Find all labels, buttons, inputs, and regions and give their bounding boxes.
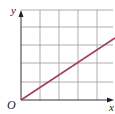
graph: [0, 0, 115, 114]
y-arrow-icon: [19, 10, 24, 17]
x-axis-label: x: [109, 101, 114, 113]
origin-label: O: [7, 98, 16, 113]
data-line: [21, 38, 115, 100]
y-axis-label: y: [11, 4, 16, 16]
grid: [21, 10, 113, 100]
